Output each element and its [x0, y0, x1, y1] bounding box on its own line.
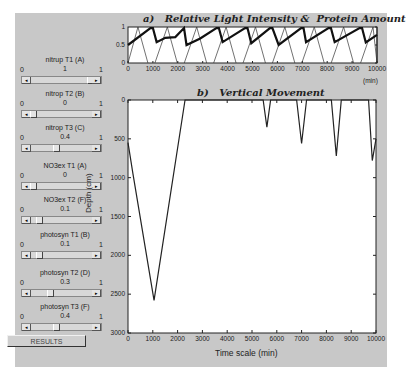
svg-text:0: 0 [126, 335, 130, 342]
svg-text:1000: 1000 [111, 174, 126, 181]
svg-text:3000: 3000 [195, 335, 210, 342]
svg-text:1000: 1000 [146, 335, 161, 342]
svg-text:9000: 9000 [344, 335, 359, 342]
svg-text:6000: 6000 [270, 335, 285, 342]
svg-text:2500: 2500 [111, 290, 126, 297]
svg-text:8000: 8000 [319, 335, 334, 342]
svg-text:7000: 7000 [294, 335, 309, 342]
svg-text:4000: 4000 [220, 335, 235, 342]
svg-text:5000: 5000 [245, 335, 260, 342]
svg-text:10000: 10000 [367, 335, 385, 342]
svg-text:2000: 2000 [170, 335, 185, 342]
svg-text:500: 500 [114, 135, 125, 142]
svg-text:1500: 1500 [111, 213, 126, 220]
svg-text:2000: 2000 [111, 251, 126, 258]
plot-b-xlabel: Time scale (min) [215, 348, 278, 358]
svg-text:0: 0 [121, 96, 125, 103]
svg-text:3000: 3000 [111, 329, 126, 336]
plot-b-ylabel: Depth (cm) [84, 173, 93, 213]
